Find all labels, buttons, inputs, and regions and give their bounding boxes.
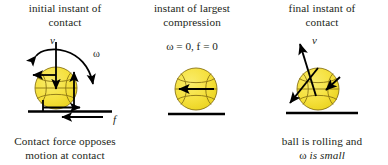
omega-label-initial: ω	[93, 48, 100, 59]
panel-initial-caption-line2: motion at contact	[0, 149, 130, 163]
panel-final-caption-line1: ball is rolling and	[256, 135, 388, 149]
friction-label-initial: f	[113, 113, 118, 125]
panel-final-caption-omega: ω	[299, 149, 309, 161]
panel-largest-compression: instant of largest compression ω = 0, f …	[128, 0, 256, 165]
panel-initial-caption: Contact force opposes motion at contact	[0, 135, 130, 162]
panel-final-caption: ball is rolling and ω is small	[256, 135, 388, 162]
panel-final-instant: final instant of contact	[256, 0, 388, 165]
panel-final-caption-line2: ω is small	[256, 149, 388, 163]
panel-initial-caption-line1: Contact force opposes	[0, 135, 130, 149]
panel-initial-instant: initial instant of contact	[0, 0, 130, 165]
panel-compression-diagram	[128, 0, 256, 165]
ball-final	[297, 68, 339, 110]
physics-figure-ball-contact: initial instant of contact	[0, 0, 388, 165]
panel-final-caption-emphasis: is small	[310, 149, 345, 161]
velocity-label-final: v	[312, 34, 317, 46]
velocity-label-initial: v	[50, 34, 55, 46]
